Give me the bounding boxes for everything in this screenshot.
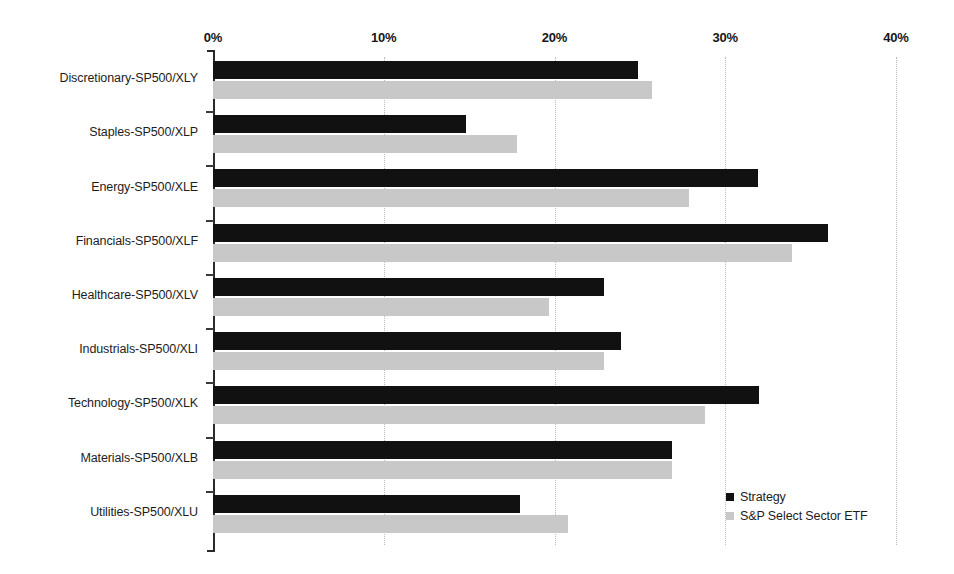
gridline <box>896 57 898 545</box>
category-tick <box>206 437 214 439</box>
category-label: Utilities-SP500/XLU <box>90 505 198 519</box>
bar-group <box>213 437 896 491</box>
bar-group <box>213 382 896 436</box>
bar-group <box>213 274 896 328</box>
category-label: Healthcare-SP500/XLV <box>72 288 198 302</box>
category-label: Energy-SP500/XLE <box>91 180 198 194</box>
bar-group <box>213 328 896 382</box>
plot-area <box>213 57 896 545</box>
bar-etf <box>213 81 652 99</box>
bar-group <box>213 57 896 111</box>
bar-group <box>213 165 896 219</box>
chart-legend: StrategyS&P Select Sector ETF <box>726 487 936 525</box>
category-axis-labels: Discretionary-SP500/XLYStaples-SP500/XLP… <box>0 57 206 545</box>
bar-etf <box>213 244 792 262</box>
category-label: Discretionary-SP500/XLY <box>59 71 198 85</box>
category-tick <box>206 328 214 330</box>
legend-entry: S&P Select Sector ETF <box>726 506 936 525</box>
category-tick <box>206 382 214 384</box>
category-label: Technology-SP500/XLK <box>68 396 198 410</box>
axis-cap-tick <box>207 550 215 552</box>
legend-label: Strategy <box>740 490 786 504</box>
bar-group <box>213 220 896 274</box>
bar-etf <box>213 352 604 370</box>
category-tick <box>206 274 214 276</box>
category-tick <box>206 165 214 167</box>
sector-performance-bar-chart: 0%10%20%30%40% Discretionary-SP500/XLYSt… <box>0 0 954 574</box>
bar-strategy <box>213 441 672 459</box>
category-tick <box>206 111 214 113</box>
category-label: Materials-SP500/XLB <box>80 451 198 465</box>
x-tick-label: 20% <box>542 30 567 45</box>
x-tick-label: 40% <box>883 30 908 45</box>
x-tick-label: 10% <box>371 30 396 45</box>
bar-etf <box>213 515 568 533</box>
x-tick-label: 0% <box>204 30 222 45</box>
bar-strategy <box>213 332 621 350</box>
axis-cap-tick <box>207 50 215 52</box>
bar-strategy <box>213 278 604 296</box>
bar-strategy <box>213 495 520 513</box>
legend-swatch-icon <box>726 493 734 501</box>
x-axis-tick-labels: 0%10%20%30%40% <box>0 30 954 50</box>
category-label: Staples-SP500/XLP <box>89 125 198 139</box>
bar-etf <box>213 406 705 424</box>
bar-strategy <box>213 61 638 79</box>
bar-strategy <box>213 169 758 187</box>
category-tick <box>206 491 214 493</box>
legend-label: S&P Select Sector ETF <box>740 509 868 523</box>
bar-etf <box>213 461 672 479</box>
bar-strategy <box>213 115 466 133</box>
bar-group <box>213 111 896 165</box>
legend-swatch-icon <box>726 512 734 520</box>
x-tick-label: 30% <box>713 30 738 45</box>
legend-entry: Strategy <box>726 487 936 506</box>
bar-strategy <box>213 224 828 242</box>
bar-etf <box>213 298 549 316</box>
bar-strategy <box>213 386 759 404</box>
category-label: Financials-SP500/XLF <box>76 234 198 248</box>
bar-etf <box>213 135 517 153</box>
bar-etf <box>213 189 689 207</box>
category-tick <box>206 220 214 222</box>
category-label: Industrials-SP500/XLI <box>79 342 198 356</box>
